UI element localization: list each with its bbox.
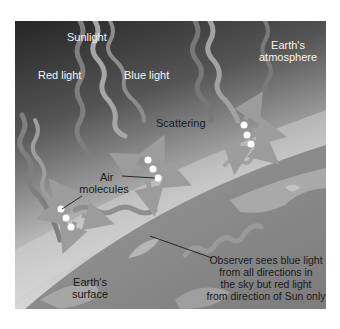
scattering-diagram: Sunlight Red light Blue light Earth's at… <box>0 0 340 329</box>
surface-line1: Earth's <box>66 276 114 288</box>
label-atmosphere: Earth's atmosphere <box>246 39 330 63</box>
atmosphere-line2: atmosphere <box>246 51 330 63</box>
molecule <box>150 166 157 173</box>
label-blue-light: Blue light <box>124 69 169 81</box>
molecule <box>241 122 248 129</box>
label-air-molecules: Air molecules <box>76 171 132 195</box>
atmosphere-line1: Earth's <box>246 39 330 51</box>
observer-line3: the sky but red light <box>206 278 326 290</box>
label-earth-surface: Earth's surface <box>66 276 114 300</box>
air-line1: Air <box>76 171 132 183</box>
label-sunlight: Sunlight <box>67 31 107 43</box>
molecule <box>145 157 152 164</box>
molecule <box>63 215 70 222</box>
observer-line2: from all directions in <box>206 266 326 278</box>
molecule <box>68 224 75 231</box>
label-scattering: Scattering <box>156 117 206 129</box>
observer-line4: from direction of Sun only <box>206 290 326 302</box>
molecule <box>155 175 162 182</box>
air-line2: molecules <box>76 183 132 195</box>
label-red-light: Red light <box>38 69 81 81</box>
molecule <box>58 206 65 213</box>
surface-line2: surface <box>66 288 114 300</box>
label-observer: Observer sees blue light from all direct… <box>206 254 326 302</box>
observer-line1: Observer sees blue light <box>206 254 326 266</box>
molecule <box>244 132 251 139</box>
molecule <box>248 141 255 148</box>
